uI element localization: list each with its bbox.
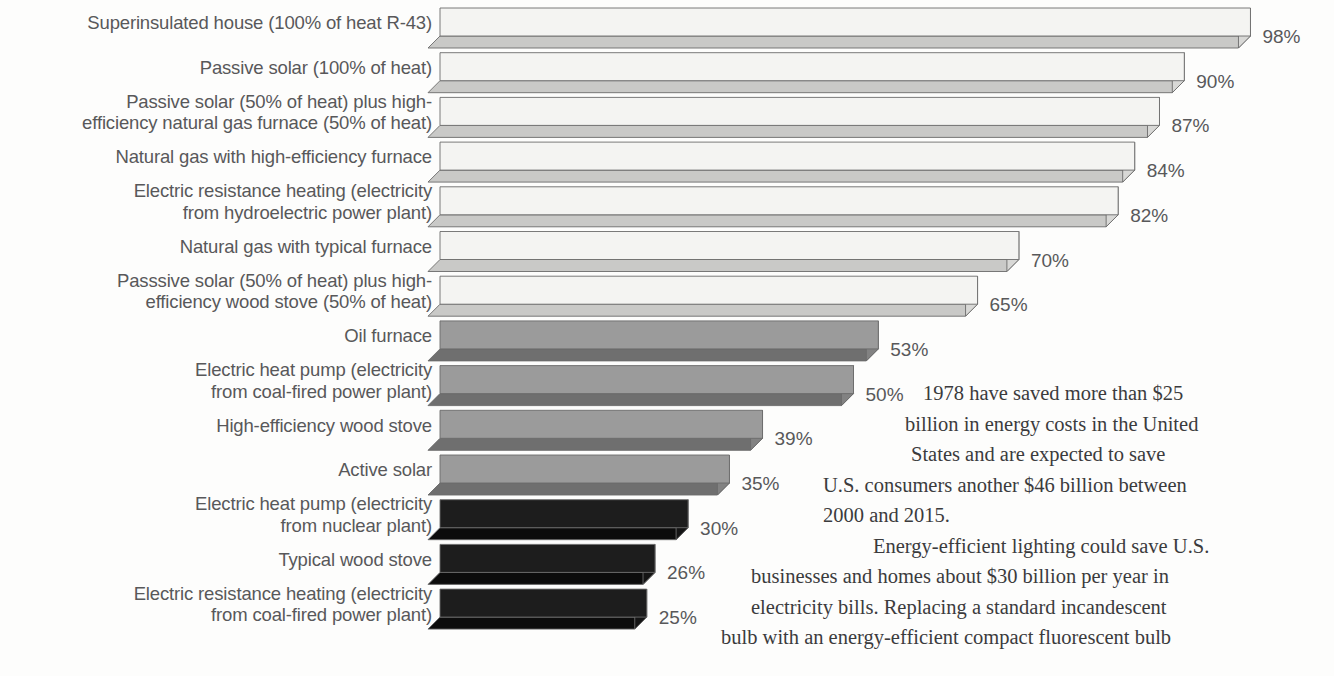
category-label: Passive solar (50% of heat) plus high- e… (82, 91, 432, 134)
value-label: 98% (1262, 27, 1300, 46)
value-label: 39% (775, 429, 813, 448)
category-label: Superinsulated house (100% of heat R-43) (87, 12, 432, 34)
category-label: Active solar (338, 459, 432, 481)
category-label: Electric heat pump (electricity from coa… (195, 359, 432, 402)
value-label: 70% (1031, 251, 1069, 270)
bar-7 (428, 276, 978, 316)
text-line: 2000 and 2015. (823, 500, 1334, 531)
value-label: 90% (1196, 72, 1234, 91)
value-label: 50% (866, 385, 904, 404)
paragraph: Energy-efficient lighting could save U.S… (905, 531, 1334, 653)
bar-5 (428, 187, 1118, 227)
value-label: 25% (659, 608, 697, 627)
category-label: Natural gas with high-efficiency furnace (115, 146, 432, 168)
text-line: States and are expected to save (905, 439, 1334, 470)
value-label: 87% (1171, 116, 1209, 135)
bar-6 (428, 232, 1019, 272)
value-label: 84% (1147, 161, 1185, 180)
bar-1 (428, 8, 1250, 48)
bar-10 (428, 410, 763, 450)
bar-14 (428, 589, 647, 629)
bar-8 (428, 321, 878, 361)
bar-3 (428, 97, 1159, 137)
figure-root: Superinsulated house (100% of heat R-43)… (0, 0, 1334, 676)
bar-13 (428, 544, 655, 584)
value-label: 82% (1130, 206, 1168, 225)
text-line: billion in energy costs in the United (905, 409, 1334, 440)
value-label: 53% (890, 340, 928, 359)
bar-4 (428, 142, 1135, 182)
bar-11 (428, 455, 729, 495)
body-text-column: 1978 have saved more than $25billion in … (905, 378, 1334, 653)
text-line: electricity bills. Replacing a standard … (725, 592, 1334, 623)
category-label: Electric resistance heating (electricity… (134, 583, 432, 626)
category-label: High-efficiency wood stove (216, 415, 432, 437)
value-label: 30% (700, 519, 738, 538)
category-label: Typical wood stove (278, 549, 432, 571)
value-label: 26% (667, 563, 705, 582)
category-label: Passsive solar (50% of heat) plus high- … (117, 270, 432, 313)
paragraph: 1978 have saved more than $25billion in … (905, 378, 1334, 531)
value-label: 35% (741, 474, 779, 493)
text-line: Energy-efficient lighting could save U.S… (847, 531, 1334, 562)
category-label: Natural gas with typical furnace (180, 236, 432, 258)
category-label: Oil furnace (344, 325, 432, 347)
text-line: businesses and homes about $30 billion p… (725, 561, 1334, 592)
category-label: Electric heat pump (electricity from nuc… (195, 493, 432, 536)
text-line: bulb with an energy-efficient compact fl… (695, 622, 1334, 653)
bar-12 (428, 500, 688, 540)
category-label: Electric resistance heating (electricity… (134, 180, 432, 223)
bar-2 (428, 53, 1184, 93)
text-line: U.S. consumers another $46 billion betwe… (823, 470, 1334, 501)
text-line: 1978 have saved more than $25 (905, 378, 1334, 409)
bar-9 (428, 366, 854, 406)
category-label: Passive solar (100% of heat) (200, 57, 432, 79)
value-label: 65% (990, 295, 1028, 314)
